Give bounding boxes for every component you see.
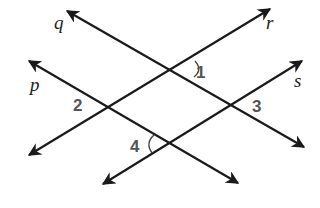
angle-label-4: 4 <box>130 137 140 156</box>
line-label-p: p <box>28 74 40 95</box>
line-label-r: r <box>266 12 274 33</box>
line-label-s: s <box>294 70 301 91</box>
angle-4-arc-icon <box>149 135 154 153</box>
angle-label-2: 2 <box>73 96 82 115</box>
angle-label-3: 3 <box>252 97 261 116</box>
angle-label-1: 1 <box>196 63 205 82</box>
line-label-q: q <box>54 12 64 33</box>
parallel-lines-diagram: q r p s 1 2 3 4 <box>0 0 320 208</box>
